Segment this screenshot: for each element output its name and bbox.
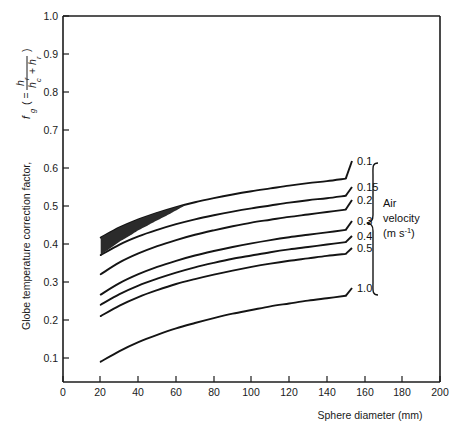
x-tick-label: 80 [208,386,220,398]
leader-1-0 [346,288,352,296]
legend-units-suffix: ) [411,227,415,239]
legend-units-exponent: -1 [404,226,411,235]
data-curves [101,179,346,362]
leader-0-2 [346,200,352,210]
x-tick-label: 60 [170,386,182,398]
legend-units-prefix: (m s [383,227,405,239]
leader-0-15 [346,187,352,196]
y-axis-denominator-b-subscript: r [34,56,43,59]
legend-title: Air velocity (m s-1) [383,197,420,239]
y-tick-label: 0.9 [43,48,58,60]
curve-1-0 [101,296,346,362]
x-tick-label: 0 [60,386,66,398]
series-label-0-5: 0.5 [357,242,372,254]
y-axis-denominator-plus: + [26,68,38,74]
y-tick-label: 0.4 [43,238,58,250]
x-axis-title: Sphere diameter (mm) [317,409,422,421]
legend-title-line2: velocity [383,212,420,224]
x-tick-label: 20 [94,386,106,398]
series-label-1-0: 1.0 [357,282,372,294]
series-label-0-4: 0.4 [357,230,372,242]
y-tick-label: 0.6 [43,162,58,174]
leader-0-3 [346,221,352,230]
y-tick-label: 0.2 [43,314,58,326]
y-axis-title: Globe temperature correction factor, f g… [14,49,43,331]
chart-svg: Globe temperature correction factor, f g… [0,0,461,435]
x-tick-label: 40 [132,386,144,398]
y-axis-ticks: 1.0 0.9 0.8 0.7 0.6 0.5 0.4 0.3 0.2 0.1 [43,10,69,364]
chart-figure: Globe temperature correction factor, f g… [0,0,461,435]
leader-0-5 [346,248,352,254]
x-tick-label: 140 [318,386,336,398]
series-labels: 0.10.150.20.30.40.51.0 [357,155,378,294]
y-tick-label: 0.5 [43,200,58,212]
curve-0-3 [101,230,346,295]
y-tick-label: 0.8 [43,86,58,98]
x-axis-ticks: 0 20 40 60 80 100 120 140 160 180 200 [60,376,449,398]
series-label-0-15: 0.15 [357,181,378,193]
series-leaders [346,161,352,296]
series-label-0-2: 0.2 [357,194,372,206]
y-axis-denominator-a-subscript: c [34,78,43,82]
series-label-0-1: 0.1 [357,155,372,167]
y-axis-paren-close: ) [20,49,32,53]
y-tick-label: 0.7 [43,124,58,136]
y-tick-label: 0.1 [43,352,58,364]
y-tick-label: 0.3 [43,276,58,288]
x-tick-label: 120 [280,386,298,398]
legend-title-line1: Air [383,197,397,209]
y-axis-title-main: Globe temperature correction factor, [20,162,32,330]
y-axis-symbol: f [20,115,32,119]
leader-0-1 [346,161,352,179]
leader-0-4 [346,236,352,242]
series-label-0-3: 0.3 [357,215,372,227]
y-axis-symbol-subscript: g [28,108,37,113]
x-tick-label: 180 [393,386,411,398]
x-tick-label: 200 [431,386,449,398]
y-axis-paren-open: ( = [20,92,32,105]
y-tick-label: 1.0 [43,10,58,22]
legend-title-units: (m s-1) [383,226,415,239]
x-tick-label: 100 [242,386,260,398]
x-tick-label: 160 [356,386,374,398]
